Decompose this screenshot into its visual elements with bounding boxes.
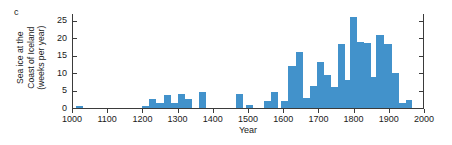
y-tick (73, 108, 77, 109)
bar (376, 35, 383, 108)
x-tick-label: 1100 (87, 115, 127, 124)
x-tick (213, 109, 214, 113)
bar (303, 98, 310, 108)
y-tick-label: 15 (27, 51, 71, 60)
bar (171, 103, 178, 108)
y-tick-right (419, 73, 423, 74)
plot-area: 0510152025 10001100120013001400150016001… (72, 14, 424, 108)
y-tick-right (419, 56, 423, 57)
x-tick (72, 109, 73, 113)
bar (264, 101, 271, 108)
bar (338, 44, 345, 108)
x-tick (389, 109, 390, 113)
bar (76, 106, 83, 108)
x-tick-label: 1300 (158, 115, 198, 124)
x-tick (283, 109, 284, 113)
bar (310, 86, 317, 108)
x-tick (248, 109, 249, 113)
bar (296, 52, 303, 108)
x-tick (318, 109, 319, 113)
y-tick (73, 91, 77, 92)
y-tick-right (419, 91, 423, 92)
x-tick-label: 1600 (263, 115, 303, 124)
x-tick-label: 1900 (369, 115, 409, 124)
x-tick (178, 109, 179, 113)
bar (392, 73, 399, 108)
figure-panel-c: c Sea ice at the Coast of Iceland (weeks… (0, 0, 452, 145)
y-axis-line (72, 14, 73, 108)
bar (156, 103, 163, 108)
bar (357, 42, 364, 108)
y-tick (73, 21, 77, 22)
x-axis-title: Year (72, 126, 424, 135)
bar (384, 44, 393, 108)
x-tick-label: 1200 (122, 115, 162, 124)
y-tick (73, 56, 77, 57)
x-tick-label: 1700 (298, 115, 338, 124)
bar (406, 100, 411, 108)
bar (288, 66, 295, 108)
bar (399, 103, 406, 108)
bar (164, 95, 171, 108)
y-tick-label: 20 (27, 34, 71, 43)
y-tick-right (419, 21, 423, 22)
y-tick (73, 73, 77, 74)
bar (185, 99, 192, 108)
bar (149, 99, 156, 108)
bar (199, 92, 206, 108)
y-tick-label: 10 (27, 69, 71, 78)
x-tick-label: 1500 (228, 115, 268, 124)
y-tick-label: 25 (27, 16, 71, 25)
y-tick-right (419, 108, 423, 109)
bar (364, 43, 371, 108)
bar (271, 92, 278, 108)
y-tick-right (419, 38, 423, 39)
x-tick-label: 1800 (334, 115, 374, 124)
bar (281, 101, 288, 108)
x-tick-label: 2000 (404, 115, 444, 124)
bar (317, 62, 324, 108)
y-tick (73, 38, 77, 39)
x-tick-label: 1000 (52, 115, 92, 124)
y-axis-right-line (423, 14, 424, 108)
y-tick-label: 0 (27, 104, 71, 113)
bar (236, 94, 243, 108)
x-tick (142, 109, 143, 113)
y-tick-label: 5 (27, 86, 71, 95)
x-tick (107, 109, 108, 113)
bar (324, 75, 331, 108)
x-tick-label: 1400 (193, 115, 233, 124)
bar (246, 105, 253, 108)
bar (331, 87, 338, 108)
bar (142, 106, 149, 108)
x-tick (424, 109, 425, 113)
bar (178, 94, 185, 108)
bar (350, 17, 357, 108)
x-tick (354, 109, 355, 113)
